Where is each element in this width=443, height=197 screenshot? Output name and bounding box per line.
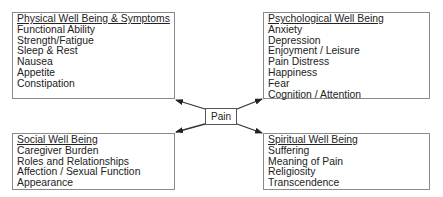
list-item: Functional Ability bbox=[17, 25, 174, 36]
physical-well-being-box: Physical Well Being & Symptoms Functiona… bbox=[12, 12, 175, 99]
list-item: Anxiety bbox=[268, 25, 429, 36]
social-well-being-box: Social Well Being Caregiver Burden Roles… bbox=[12, 133, 175, 190]
list-item: Appearance bbox=[17, 178, 174, 189]
list-item: Cognition / Attention bbox=[268, 90, 429, 101]
list-item: Constipation bbox=[17, 79, 174, 90]
list-item: Caregiver Burden bbox=[17, 146, 174, 157]
list-item: Fear bbox=[268, 79, 429, 90]
psychological-well-being-box: Psychological Well Being Anxiety Depress… bbox=[263, 12, 430, 99]
arrow-to-social bbox=[176, 124, 205, 132]
arrow-to-psychological bbox=[237, 99, 262, 109]
spiritual-well-being-box: Spiritual Well Being Suffering Meaning o… bbox=[263, 133, 430, 190]
list-item: Happiness bbox=[268, 68, 429, 79]
list-item: Transcendence bbox=[268, 178, 429, 189]
pain-center-node: Pain bbox=[205, 108, 237, 125]
arrow-to-spiritual bbox=[237, 124, 262, 133]
arrow-to-physical bbox=[176, 100, 205, 109]
list-item: Suffering bbox=[268, 146, 429, 157]
